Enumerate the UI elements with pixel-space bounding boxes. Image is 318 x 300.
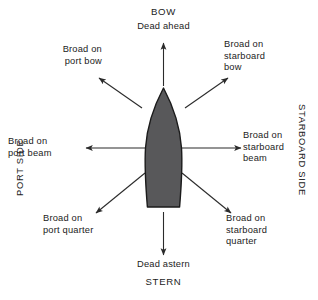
label-starboard-side: STARBOARD SIDE — [297, 104, 308, 196]
arrow-broad-on-starboard-bow — [185, 78, 228, 108]
ship-hull — [145, 88, 182, 207]
label-broad-on-port-quarter: Broad on port quarter — [43, 213, 139, 236]
label-broad-on-starboard-bow: Broad on starboard bow — [224, 39, 310, 74]
arrow-broad-on-starboard-quarter — [182, 173, 231, 213]
label-broad-on-starboard-quarter: Broad on starboard quarter — [226, 213, 312, 248]
label-broad-on-port-bow: Broad on port bow — [24, 44, 102, 67]
relative-bearings-diagram: BOW Dead ahead Broad on port bow Broad o… — [0, 0, 318, 300]
label-dead-ahead: Dead ahead — [118, 21, 209, 33]
label-bow: BOW — [133, 6, 194, 18]
arrow-broad-on-port-bow — [99, 78, 142, 108]
label-stern: STERN — [131, 276, 196, 288]
arrow-broad-on-port-quarter — [96, 173, 145, 213]
label-port-side: PORT SIDE — [14, 140, 25, 197]
label-dead-astern: Dead astern — [118, 259, 209, 271]
